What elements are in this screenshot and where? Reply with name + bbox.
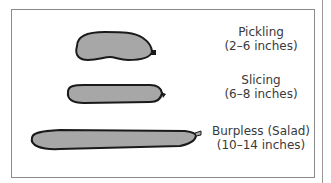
slicing-label: Slicing (6–8 inches) (206, 73, 316, 101)
burpless-size: (10–14 inches) (206, 138, 316, 152)
slicing-cucumber-icon (68, 85, 166, 103)
pickling-name: Pickling (206, 25, 316, 39)
pickling-label: Pickling (2–6 inches) (206, 25, 316, 53)
slicing-name: Slicing (206, 73, 316, 87)
burpless-cucumber-icon (32, 130, 201, 149)
pickling-cucumber-icon (76, 32, 156, 60)
slicing-size: (6–8 inches) (206, 87, 316, 101)
burpless-name: Burpless (Salad) (206, 124, 316, 138)
burpless-label: Burpless (Salad) (10–14 inches) (206, 124, 316, 152)
pickling-size: (2–6 inches) (206, 39, 316, 53)
